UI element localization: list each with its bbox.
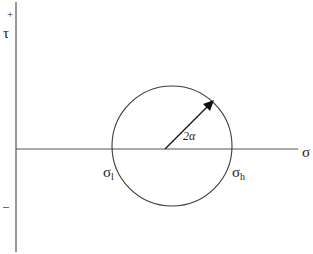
mohr-circle [112, 86, 232, 206]
tau-plus-label: + [7, 8, 13, 20]
mohr-circle-diagram: + τ – σ 2α σl σh [0, 0, 313, 254]
sigma-high-label: σh [232, 164, 245, 182]
radius-label: 2α [183, 129, 196, 143]
tau-minus-label: – [2, 199, 10, 213]
tau-axis-label: τ [3, 25, 9, 41]
sigma-low-label: σl [103, 164, 114, 182]
sigma-axis-label: σ [302, 144, 310, 160]
